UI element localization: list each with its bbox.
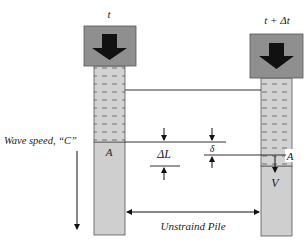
left-pile: A bbox=[84, 26, 136, 235]
unstrained-pile-label: Unstraind Pile bbox=[160, 220, 225, 232]
delta-label: δ bbox=[210, 143, 215, 154]
pile-wave-diagram: t t + Δt A A V ΔL δ Wave speed, “C” Unst… bbox=[0, 0, 307, 248]
time-label-t: t bbox=[107, 8, 111, 20]
left-pile-strained bbox=[94, 66, 125, 142]
right-section-label-a: A bbox=[286, 150, 294, 162]
delta-l-label: ΔL bbox=[156, 147, 171, 161]
wave-speed-label: Wave speed, “C” bbox=[4, 135, 77, 146]
left-section-label-a: A bbox=[105, 146, 113, 158]
time-label-t-plus-dt: t + Δt bbox=[264, 14, 290, 26]
right-pile: A V bbox=[250, 34, 303, 236]
